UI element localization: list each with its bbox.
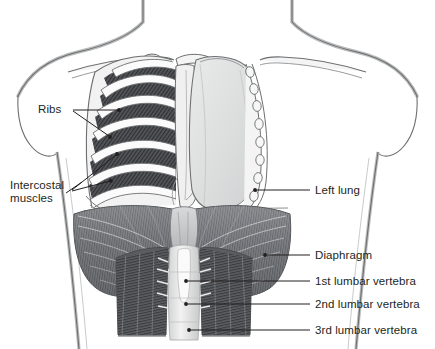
anatomy-figure: Ribs Intercostal muscles Left lung Diaph… (0, 0, 435, 349)
label-left-lung: Left lung (315, 184, 360, 198)
label-intercostal-muscles-line1: Intercostal (10, 179, 64, 193)
label-intercostal-muscles-line2: muscles (10, 192, 53, 206)
label-diaphragm: Diaphragm (315, 249, 372, 263)
label-1st-lumbar-vertebra: 1st lumbar vertebra (315, 275, 416, 289)
label-2nd-lumbar-vertebra: 2nd lumbar vertebra (315, 298, 420, 312)
diaphragm-crura (112, 242, 256, 340)
label-3rd-lumbar-vertebra: 3rd lumbar vertebra (315, 324, 417, 338)
anatomy-illustration (0, 0, 435, 349)
label-ribs: Ribs (38, 103, 61, 117)
